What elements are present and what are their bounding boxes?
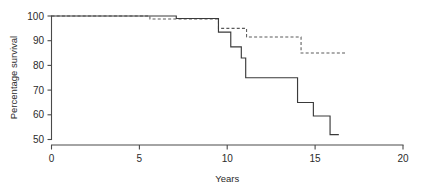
x-axis-ticks	[52, 145, 404, 150]
chart-plot-area: 100 90 80 70 60 50 0 5 10 15 20 Years Pe…	[0, 0, 422, 190]
y-tick-label: 80	[33, 60, 45, 71]
y-axis-ticks	[48, 16, 52, 140]
dashed-survival-curve	[52, 16, 347, 53]
x-tick-label: 5	[137, 153, 143, 164]
survival-chart-figure: 100 90 80 70 60 50 0 5 10 15 20 Years Pe…	[0, 0, 422, 190]
y-tick-label: 50	[33, 134, 45, 145]
solid-survival-curve	[52, 16, 339, 135]
x-tick-label: 20	[397, 153, 409, 164]
x-axis-title: Years	[215, 173, 239, 184]
y-tick-label: 70	[33, 85, 45, 96]
y-tick-label: 90	[33, 35, 45, 46]
y-axis-title: Percentage survival	[8, 36, 19, 119]
x-axis-tick-labels: 0 5 10 15 20	[49, 153, 409, 164]
y-tick-label: 60	[33, 109, 45, 120]
x-tick-label: 10	[222, 153, 234, 164]
y-tick-label: 100	[27, 11, 44, 22]
x-tick-label: 0	[49, 153, 55, 164]
y-axis-tick-labels: 100 90 80 70 60 50	[27, 11, 44, 146]
x-tick-label: 15	[310, 153, 322, 164]
